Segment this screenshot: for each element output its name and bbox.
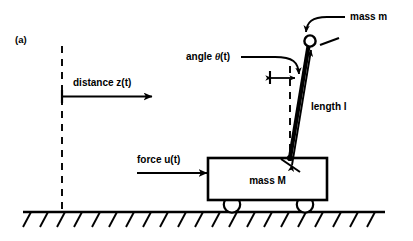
pendulum-rod bbox=[290, 46, 309, 158]
cart-mass-label: mass M bbox=[249, 175, 286, 186]
distance-dimension-group: distance z(t) bbox=[62, 77, 152, 103]
mass-m-label: mass m bbox=[350, 11, 387, 22]
force-label: force u(t) bbox=[137, 154, 180, 165]
force-group: force u(t) bbox=[137, 154, 207, 173]
length-tick-top bbox=[320, 38, 339, 45]
mass-m-leader-curve bbox=[306, 17, 345, 32]
distance-label: distance z(t) bbox=[73, 77, 131, 88]
ground-hatching bbox=[23, 212, 375, 227]
pendulum-bob bbox=[304, 35, 315, 46]
length-label: length l bbox=[311, 101, 347, 112]
angle-label-word: angle bbox=[186, 51, 213, 62]
angle-label-arg: (t) bbox=[220, 51, 230, 62]
mass-m-leader-group: mass m bbox=[306, 11, 387, 32]
panel-label: (a) bbox=[15, 34, 27, 45]
pendulum-group bbox=[287, 35, 316, 161]
inverted-pendulum-diagram: mass M length l angle θ(t) bbox=[0, 0, 413, 241]
ground-group bbox=[23, 212, 385, 227]
length-arrow bbox=[292, 50, 311, 165]
cart-group: mass M bbox=[208, 158, 327, 213]
angle-indicator-group bbox=[270, 71, 295, 84]
angle-leader-group: angle θ(t) bbox=[186, 51, 299, 74]
angle-label: angle θ(t) bbox=[186, 51, 230, 62]
